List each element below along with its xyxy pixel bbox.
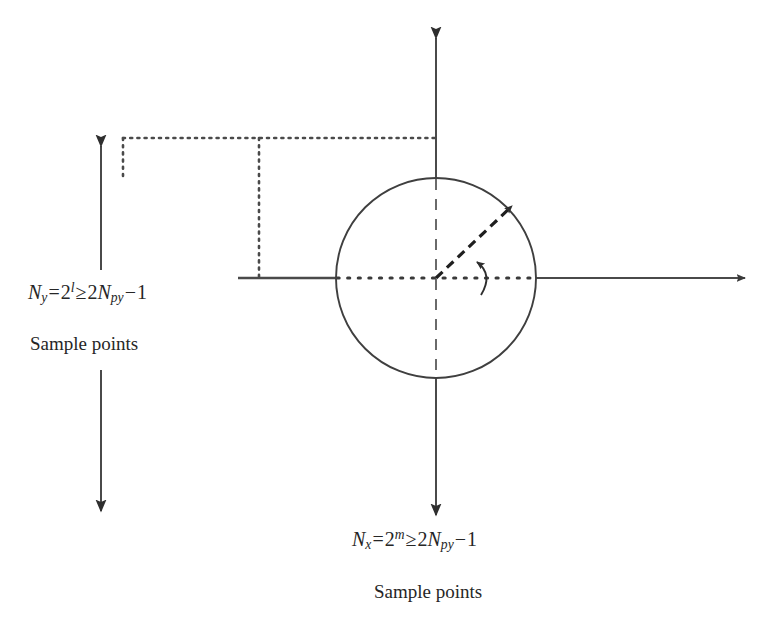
- ny-rhs-constant: 1: [137, 281, 147, 303]
- diagram-root: Ny=2l≥2Npy−1 Sample points Nx=2m≥2Npy−1 …: [0, 0, 775, 631]
- nx-equals: =: [371, 528, 384, 550]
- ny-rhs-coefficient: 2: [87, 281, 97, 303]
- nx-relation: ≥: [405, 528, 418, 550]
- nx-variable: N: [352, 528, 365, 550]
- y-axis-sample-points-caption: Sample points: [30, 333, 138, 355]
- ny-rhs-subscript: py: [111, 290, 124, 305]
- nx-rhs-subscript: py: [441, 537, 454, 552]
- ny-relation: ≥: [74, 281, 87, 303]
- radius-vector-arrow: [436, 206, 512, 278]
- x-axis-formula-label: Nx=2m≥2Npy−1: [352, 527, 477, 553]
- ny-base: 2: [61, 281, 71, 303]
- x-axis-sample-points-caption: Sample points: [374, 581, 482, 603]
- ny-rhs-variable: N: [97, 281, 110, 303]
- ny-equals: =: [47, 281, 60, 303]
- nx-minus: −: [454, 528, 467, 550]
- nx-rhs-variable: N: [427, 528, 440, 550]
- y-axis-formula-label: Ny=2l≥2Npy−1: [28, 280, 147, 306]
- nx-rhs-coefficient: 2: [417, 528, 427, 550]
- nx-exponent: m: [395, 527, 405, 542]
- nx-base: 2: [385, 528, 395, 550]
- ny-minus: −: [124, 281, 137, 303]
- ny-variable: N: [28, 281, 41, 303]
- nx-rhs-constant: 1: [467, 528, 477, 550]
